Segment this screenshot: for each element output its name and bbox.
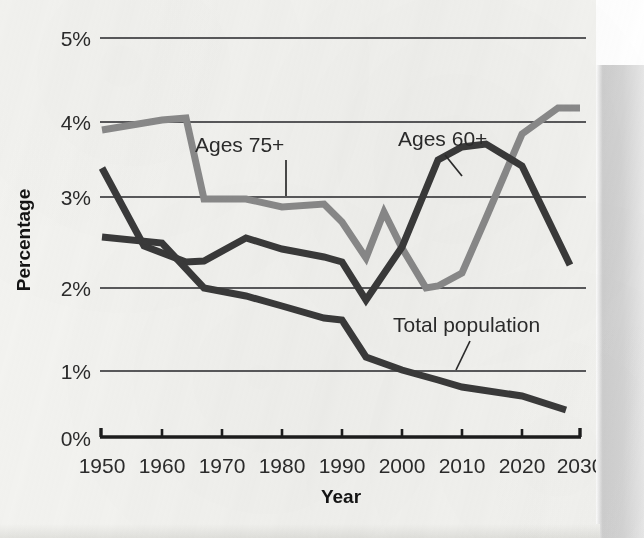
page-edge-highlight	[596, 0, 644, 65]
chart-svg: 5% 4% 3% 2% 1% 0% 1950 1960 1970 1980 19…	[0, 0, 644, 538]
series-label-total-population: Total population	[393, 313, 540, 336]
x-tick-label-2000: 2000	[379, 454, 426, 477]
y-tick-label-5: 5%	[61, 27, 91, 50]
y-tick-label-0: 0%	[61, 427, 91, 450]
y-tick-label-1: 1%	[61, 360, 91, 383]
leader-line-ages-60-plus	[445, 155, 462, 176]
x-tick-label-1960: 1960	[139, 454, 186, 477]
x-tick-label-1970: 1970	[199, 454, 246, 477]
line-chart: 5% 4% 3% 2% 1% 0% 1950 1960 1970 1980 19…	[0, 0, 644, 538]
y-axis-title: Percentage	[13, 189, 34, 291]
x-tick-label-2020: 2020	[499, 454, 546, 477]
series-label-ages-60-plus: Ages 60+	[398, 127, 487, 150]
x-tick-label-1950: 1950	[79, 454, 126, 477]
leader-line-total-population	[456, 341, 470, 370]
scanned-figure-page: 5% 4% 3% 2% 1% 0% 1950 1960 1970 1980 19…	[0, 0, 644, 538]
page-edge-shadow	[596, 65, 644, 538]
x-tick-label-1990: 1990	[319, 454, 366, 477]
y-tick-label-3: 3%	[61, 186, 91, 209]
y-tick-label-4: 4%	[61, 111, 91, 134]
x-axis-title: Year	[321, 486, 362, 507]
series-label-ages-75-plus: Ages 75+	[195, 133, 284, 156]
axes	[100, 428, 581, 437]
series-line-ages-60-plus	[102, 144, 570, 300]
x-tick-label-2010: 2010	[439, 454, 486, 477]
y-tick-label-2: 2%	[61, 277, 91, 300]
page-bottom-shadow	[0, 524, 600, 538]
x-tick-label-1980: 1980	[259, 454, 306, 477]
y-tick-labels: 5% 4% 3% 2% 1% 0%	[61, 27, 91, 450]
x-tick-labels: 1950 1960 1970 1980 1990 2000 2010 2020 …	[79, 454, 604, 477]
